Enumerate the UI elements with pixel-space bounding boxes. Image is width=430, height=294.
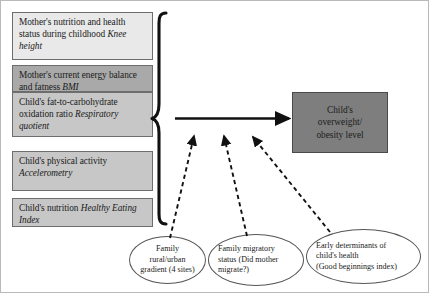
grouping-brace-icon <box>152 13 166 224</box>
moderator-arrow-rural-urban <box>170 136 194 238</box>
diagram-canvas: Mother's nutrition and health status dur… <box>0 0 430 294</box>
moderator-arrow-early-determinants <box>253 137 330 232</box>
connector-layer <box>0 0 430 294</box>
moderator-arrow-migratory-status <box>224 136 247 236</box>
